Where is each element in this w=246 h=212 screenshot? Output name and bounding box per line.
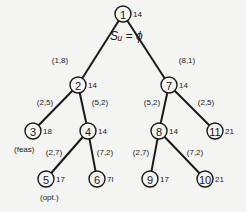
edge-labels: (1,8)(8,1)(2,5)(5,2)(2,7)(7,2)(5,2)(2,5)… <box>37 56 215 157</box>
node-bound: 17 <box>56 175 65 184</box>
node-bound: 7l <box>107 175 113 184</box>
node-bound: 17 <box>160 175 169 184</box>
edge-label: (2,5) <box>37 98 54 107</box>
edge-label: (1,8) <box>52 56 69 65</box>
node-3: 318 <box>25 123 52 139</box>
node-label: 8 <box>156 126 162 138</box>
edge-label: (7,2) <box>97 148 114 157</box>
node-bound: 14 <box>88 81 97 90</box>
branch-and-bound-tree: Sᵤ = ϕ (1,8)(8,1)(2,5)(5,2)(2,7)(7,2)(5,… <box>0 0 246 212</box>
edge-2-3 <box>33 85 78 131</box>
node-bound: 21 <box>215 175 224 184</box>
node-annotation: (opt.) <box>40 193 59 202</box>
node-label: 10 <box>199 174 211 186</box>
node-label: 4 <box>85 126 91 138</box>
edge-label: (5,2) <box>92 98 109 107</box>
node-annotation: (feas) <box>14 145 35 154</box>
node-11: 1121 <box>207 123 234 139</box>
edge-label: (8,1) <box>179 56 196 65</box>
node-6: 67l <box>89 171 113 187</box>
node-bound: 14 <box>179 81 188 90</box>
node-label: 9 <box>147 174 153 186</box>
node-label: 11 <box>209 126 220 138</box>
edge-label: (2,5) <box>198 98 215 107</box>
node-label: 5 <box>43 174 49 186</box>
edge-label: (7,2) <box>187 148 204 157</box>
edge-1-2 <box>78 14 123 85</box>
node-bound: 14 <box>169 127 178 136</box>
node-bound: 18 <box>43 127 52 136</box>
node-bound: 21 <box>225 127 234 136</box>
edge-7-11 <box>169 85 215 131</box>
node-4: 414 <box>80 123 107 139</box>
node-bound: 14 <box>98 127 107 136</box>
edge-1-7 <box>123 14 169 85</box>
node-1: 114 <box>115 6 142 22</box>
node-label: 3 <box>30 126 36 138</box>
node-10: 1021 <box>197 171 224 187</box>
node-7: 714 <box>161 77 188 93</box>
node-label: 2 <box>75 80 81 92</box>
node-label: 7 <box>166 80 172 92</box>
node-bound: 14 <box>133 10 142 19</box>
node-8: 814 <box>151 123 178 139</box>
node-5: 517 <box>38 171 65 187</box>
node-9: 917 <box>142 171 169 187</box>
node-2: 214 <box>70 77 97 93</box>
edge-label: (2,7) <box>133 148 150 157</box>
node-label: 1 <box>120 9 126 21</box>
edge-label: (2,7) <box>46 148 63 157</box>
node-label: 6 <box>94 174 100 186</box>
edge-label: (5,2) <box>144 98 161 107</box>
